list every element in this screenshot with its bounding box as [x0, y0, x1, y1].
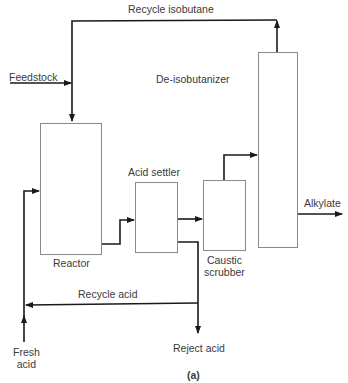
flow-diagram: [0, 0, 348, 383]
caustic-scrubber-label-line2: scrubber: [204, 266, 245, 278]
scrubber-to-column-line: [224, 155, 257, 180]
caustic-scrubber-vessel: [204, 181, 246, 251]
acid-settler-label: Acid settler: [128, 166, 180, 178]
feedstock-label: Feedstock: [9, 71, 57, 83]
recycle-isobutane-line: [72, 20, 277, 121]
alkylate-label: Alkylate: [304, 197, 341, 209]
fresh-acid-label-line2: acid: [13, 358, 40, 370]
recycle-acid-arrow: [26, 303, 198, 305]
recycle-isobutane-label: Recycle isobutane: [128, 3, 214, 15]
caustic-scrubber-label-line1: Caustic: [204, 254, 245, 266]
de-isobutanizer-column: [259, 53, 298, 248]
reactor-to-settler-line: [102, 220, 134, 244]
reactor-label: Reactor: [53, 257, 90, 269]
fresh-acid-label-line1: Fresh: [13, 346, 40, 358]
acid-settler-vessel: [136, 183, 178, 253]
figure-caption: (a): [187, 369, 200, 381]
fresh-acid-label: Fresh acid: [13, 346, 40, 370]
caustic-scrubber-label: Caustic scrubber: [204, 254, 245, 278]
reject-acid-label: Reject acid: [173, 342, 225, 354]
settler-acid-drain-line: [178, 242, 198, 333]
reactor-vessel: [41, 124, 102, 255]
recycle-acid-label: Recycle acid: [78, 288, 138, 300]
acid-feed-to-reactor-line: [24, 191, 39, 318]
de-isobutanizer-label: De-isobutanizer: [156, 73, 230, 85]
